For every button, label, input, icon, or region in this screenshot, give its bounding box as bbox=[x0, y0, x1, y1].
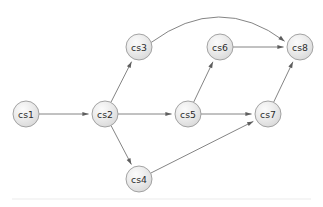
node-label: cs5 bbox=[180, 109, 196, 120]
arrowhead bbox=[208, 62, 213, 68]
node-label: cs3 bbox=[131, 42, 147, 53]
node-label: cs8 bbox=[292, 42, 308, 53]
node-label: cs2 bbox=[97, 109, 113, 120]
edge-cs7-to-cs8 bbox=[274, 62, 293, 102]
node-cs2[interactable]: cs2 bbox=[92, 101, 118, 127]
diagram-canvas: cs1cs2cs3cs4cs5cs6cs7cs8 bbox=[0, 0, 323, 207]
node-cs1[interactable]: cs1 bbox=[13, 101, 39, 127]
node-cs5[interactable]: cs5 bbox=[175, 101, 201, 127]
edge-cs2-to-cs5 bbox=[118, 112, 172, 116]
nodes-layer: cs1cs2cs3cs4cs5cs6cs7cs8 bbox=[13, 34, 313, 192]
edges-layer bbox=[39, 17, 293, 173]
edge-cs4-to-cs7 bbox=[151, 121, 254, 173]
arrowhead bbox=[247, 121, 253, 126]
node-label: cs1 bbox=[18, 109, 34, 120]
edge-line bbox=[194, 62, 213, 102]
edge-cs2-to-cs3 bbox=[111, 62, 132, 103]
arrowhead bbox=[82, 112, 88, 116]
edge-line bbox=[274, 62, 293, 102]
edge-cs2-to-cs4 bbox=[111, 126, 131, 165]
edge-line bbox=[111, 62, 132, 103]
arrowhead bbox=[278, 36, 284, 41]
node-label: cs4 bbox=[131, 174, 147, 185]
edge-cs5-to-cs6 bbox=[194, 62, 213, 102]
edge-line bbox=[151, 121, 254, 173]
arrowhead bbox=[277, 45, 283, 49]
node-cs7[interactable]: cs7 bbox=[255, 101, 281, 127]
arrowhead bbox=[127, 158, 132, 164]
arrowhead bbox=[288, 62, 293, 68]
node-label: cs7 bbox=[260, 109, 276, 120]
arrowhead bbox=[165, 112, 171, 116]
directed-graph: cs1cs2cs3cs4cs5cs6cs7cs8 bbox=[0, 0, 323, 207]
edge-line bbox=[111, 126, 131, 165]
arrowhead bbox=[127, 62, 132, 68]
edge-cs5-to-cs7 bbox=[201, 112, 252, 116]
node-cs8[interactable]: cs8 bbox=[287, 34, 313, 60]
arrowhead bbox=[245, 112, 251, 116]
edge-cs6-to-cs8 bbox=[233, 45, 284, 49]
node-cs6[interactable]: cs6 bbox=[207, 34, 233, 60]
edge-cs1-to-cs2 bbox=[39, 112, 89, 116]
node-label: cs6 bbox=[212, 42, 228, 53]
node-cs3[interactable]: cs3 bbox=[126, 34, 152, 60]
node-cs4[interactable]: cs4 bbox=[126, 166, 152, 192]
